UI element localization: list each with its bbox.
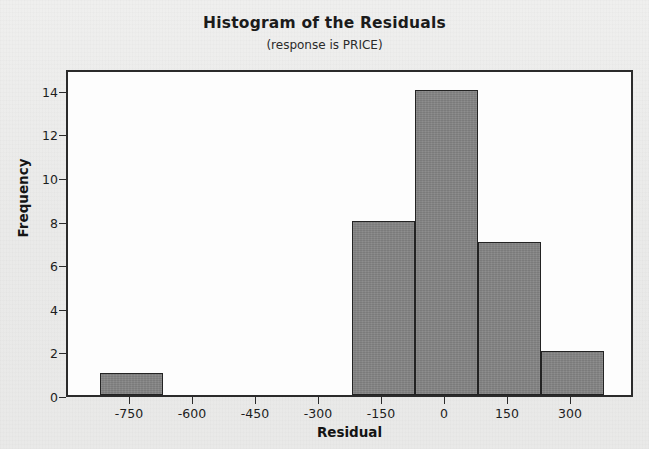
y-axis-tick-label: 12 <box>42 128 58 143</box>
x-axis-tick-label: 0 <box>440 406 448 421</box>
x-axis-tick-label: -450 <box>241 406 269 421</box>
y-axis-tick-label: 0 <box>50 390 58 405</box>
chart-title: Histogram of the Residuals <box>0 14 649 32</box>
histogram-figure: Histogram of the Residuals (response is … <box>0 0 649 449</box>
x-axis-title: Residual <box>66 424 633 440</box>
histogram-bar <box>478 242 541 395</box>
x-axis-tick-label: -600 <box>178 406 206 421</box>
y-axis-tick <box>59 353 66 354</box>
y-axis-tick <box>59 266 66 267</box>
histogram-bar <box>352 221 415 395</box>
x-axis-tick-label: -300 <box>304 406 332 421</box>
x-axis-tick-label: -150 <box>367 406 395 421</box>
y-axis-tick <box>59 310 66 311</box>
histogram-bar <box>415 90 478 395</box>
x-axis-tick-labels: -750-600-450-300-1500150300 <box>66 397 633 423</box>
chart-subtitle: (response is PRICE) <box>0 38 649 52</box>
y-axis-tick-label: 2 <box>50 346 58 361</box>
y-axis-tick-label: 6 <box>50 259 58 274</box>
y-axis-tick <box>59 135 66 136</box>
plot-area <box>68 72 631 395</box>
y-axis-title: Frequency <box>15 113 31 283</box>
y-axis-tick <box>59 223 66 224</box>
histogram-bar <box>541 351 604 395</box>
y-axis-tick-label: 4 <box>50 302 58 317</box>
histogram-bar <box>100 373 163 395</box>
y-axis-tick-label: 10 <box>42 172 58 187</box>
y-axis-tick-label: 14 <box>42 84 58 99</box>
y-axis-tick-label: 8 <box>50 215 58 230</box>
plot-frame <box>66 70 633 397</box>
y-axis-tick <box>59 397 66 398</box>
y-axis-tick <box>59 179 66 180</box>
x-axis-tick-label: 300 <box>558 406 582 421</box>
y-axis-tick <box>59 92 66 93</box>
x-axis-tick-label: -750 <box>115 406 143 421</box>
x-axis-tick-label: 150 <box>495 406 519 421</box>
